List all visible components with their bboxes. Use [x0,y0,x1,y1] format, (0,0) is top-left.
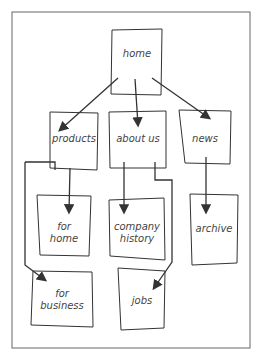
label-for-business-2: business [30,300,94,312]
node-home [111,29,162,95]
label-for-home-1: for [38,221,90,233]
label-home: home [112,48,162,60]
label-archive: archive [190,223,238,235]
label-for-business-1: for [30,288,94,300]
label-company-history-1: company [108,221,166,233]
label-for-home-2: home [38,233,90,245]
label-about-us: about us [108,133,168,145]
label-products: products [48,133,100,145]
label-news: news [180,133,230,145]
label-jobs: jobs [118,295,166,307]
label-company-history-2: history [108,233,166,245]
